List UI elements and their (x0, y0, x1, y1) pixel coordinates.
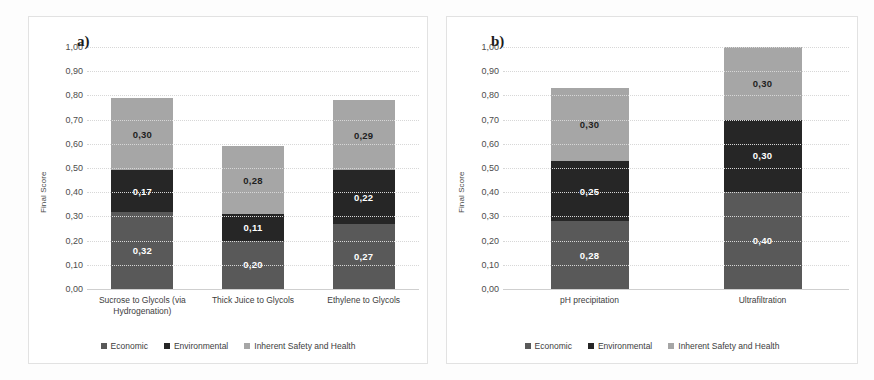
y-tick-label: 0,60 (465, 139, 499, 149)
category-label: Ethylene to Glycols (308, 295, 419, 318)
bar-segment-environmental[interactable]: 0,30 (724, 120, 802, 193)
y-tick-label: 0,10 (49, 260, 83, 270)
bar-segment-safety[interactable]: 0,30 (551, 88, 629, 161)
category-label: Sucrose to Glycols (via Hydrogenation) (87, 295, 198, 318)
bar-value-label: 0,32 (133, 245, 152, 256)
gridline (503, 144, 849, 145)
gridline (87, 265, 419, 266)
bar-segment-economic[interactable]: 0,27 (333, 224, 395, 289)
stacked-bar[interactable]: 0,270,220,29 (333, 100, 395, 289)
bar-value-label: 0,28 (243, 175, 262, 186)
panel-b-tag: b) (491, 33, 504, 50)
bar-value-label: 0,11 (244, 222, 263, 233)
panel-a-y-axis-ticks: 1,000,900,800,700,600,500,400,300,200,10… (45, 17, 83, 363)
bar-value-label: 0,29 (354, 130, 373, 141)
panel-b-category-labels: pH precipitationUltrafiltration (503, 295, 849, 306)
gridline (503, 95, 849, 96)
gridline (87, 216, 419, 217)
bar-segment-safety[interactable]: 0,28 (222, 146, 284, 214)
y-tick-label: 0,50 (465, 163, 499, 173)
y-tick-label: 0,80 (49, 90, 83, 100)
gridline (503, 71, 849, 72)
legend-swatch-icon (525, 343, 531, 349)
y-tick-label: 0,40 (49, 187, 83, 197)
legend-label: Inherent Safety and Health (678, 341, 779, 351)
legend-swatch-icon (164, 343, 170, 349)
bar-value-label: 0,30 (753, 78, 772, 89)
gridline (87, 47, 419, 48)
figure-container: a) Final Score 1,000,900,800,700,600,500… (0, 0, 874, 380)
chart-panel-a: a) Final Score 1,000,900,800,700,600,500… (28, 16, 428, 364)
y-tick-label: 0,70 (465, 115, 499, 125)
gridline (503, 192, 849, 193)
bar-segment-safety[interactable]: 0,29 (333, 100, 395, 170)
y-tick-label: 0,40 (465, 187, 499, 197)
y-tick-label: 0,60 (49, 139, 83, 149)
bar-value-label: 0,27 (354, 251, 373, 262)
legend-swatch-icon (588, 343, 594, 349)
category-label: Ultrafiltration (699, 295, 827, 306)
panel-b-y-axis-ticks: 1,000,900,800,700,600,500,400,300,200,10… (461, 17, 499, 363)
legend-label: Economic (535, 341, 572, 351)
category-label: pH precipitation (526, 295, 654, 306)
stacked-bar[interactable]: 0,320,170,30 (111, 98, 173, 289)
bar-column[interactable]: 0,320,170,30 (111, 98, 173, 289)
legend-label: Inherent Safety and Health (254, 341, 355, 351)
bar-column[interactable]: 0,280,250,30 (551, 88, 629, 289)
bar-value-label: 0,28 (580, 250, 599, 261)
y-tick-label: 0,20 (465, 236, 499, 246)
gridline (87, 241, 419, 242)
legend-label: Economic (111, 341, 148, 351)
y-tick-label: 0,50 (49, 163, 83, 173)
legend-swatch-icon (101, 343, 107, 349)
y-tick-label: 0,90 (49, 66, 83, 76)
legend-item-environmental[interactable]: Environmental (588, 341, 652, 351)
gridline (503, 216, 849, 217)
gridline (503, 241, 849, 242)
y-tick-label: 0,30 (49, 211, 83, 221)
gridline (87, 192, 419, 193)
legend-item-safety[interactable]: Inherent Safety and Health (244, 341, 355, 351)
legend-label: Environmental (598, 341, 652, 351)
panel-a-category-labels: Sucrose to Glycols (via Hydrogenation)Th… (87, 295, 419, 318)
bar-segment-safety[interactable]: 0,30 (111, 98, 173, 171)
y-tick-label: 0,10 (465, 260, 499, 270)
bar-column[interactable]: 0,270,220,29 (333, 100, 395, 289)
bar-segment-economic[interactable]: 0,32 (111, 212, 173, 289)
bar-segment-economic[interactable]: 0,28 (551, 221, 629, 289)
bar-segment-environmental[interactable]: 0,17 (111, 170, 173, 211)
panel-b-legend: EconomicEnvironmentalInherent Safety and… (447, 341, 857, 351)
bar-segment-safety[interactable]: 0,30 (724, 47, 802, 120)
legend-label: Environmental (174, 341, 228, 351)
gridline (503, 265, 849, 266)
y-tick-label: 0,30 (465, 211, 499, 221)
legend-swatch-icon (244, 343, 250, 349)
gridline (87, 168, 419, 169)
stacked-bar[interactable]: 0,280,250,30 (551, 88, 629, 289)
y-tick-label: 0,80 (465, 90, 499, 100)
axis-baseline (87, 289, 419, 290)
bar-value-label: 0,17 (133, 186, 152, 197)
gridline (503, 120, 849, 121)
gridline (87, 144, 419, 145)
y-tick-label: 0,90 (465, 66, 499, 76)
gridline (87, 71, 419, 72)
bar-value-label: 0,25 (580, 186, 599, 197)
y-tick-label: 0,20 (49, 236, 83, 246)
y-tick-label: 0,00 (49, 284, 83, 294)
y-tick-label: 0,00 (465, 284, 499, 294)
legend-item-economic[interactable]: Economic (525, 341, 572, 351)
gridline (503, 168, 849, 169)
bar-segment-environmental[interactable]: 0,25 (551, 161, 629, 222)
panel-b-plot-area: 0,280,250,300,400,300,30 (503, 17, 849, 363)
legend-item-environmental[interactable]: Environmental (164, 341, 228, 351)
category-label: Thick Juice to Glycols (198, 295, 309, 318)
axis-baseline (503, 289, 849, 290)
bar-segment-environmental[interactable]: 0,11 (222, 214, 284, 241)
legend-item-safety[interactable]: Inherent Safety and Health (668, 341, 779, 351)
gridline (87, 120, 419, 121)
chart-panel-b: b) Final Score 1,000,900,800,700,600,500… (446, 16, 858, 364)
bar-value-label: 0,30 (753, 150, 772, 161)
legend-item-economic[interactable]: Economic (101, 341, 148, 351)
gridline (87, 95, 419, 96)
